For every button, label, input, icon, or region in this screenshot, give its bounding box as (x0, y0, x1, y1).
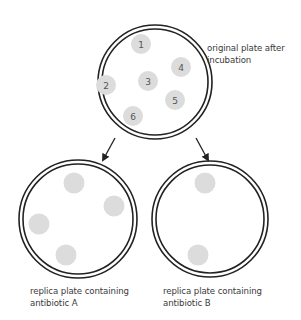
colony-2: 2 (96, 75, 116, 95)
original-plate-label-line1: original plate after (207, 42, 285, 54)
arrow-to-replica-b (196, 138, 208, 160)
replica-a-label-line2: antibiotic A (30, 297, 129, 309)
svg-text:1: 1 (138, 40, 144, 50)
svg-text:3: 3 (145, 77, 151, 87)
colony-a-4 (104, 196, 125, 217)
colony-6: 6 (123, 106, 143, 126)
original-plate-label-line2: incubation (207, 54, 285, 66)
colony-3: 3 (138, 71, 158, 91)
colony-a-6 (56, 245, 77, 266)
svg-text:4: 4 (178, 63, 184, 73)
svg-text:2: 2 (103, 81, 109, 91)
svg-text:5: 5 (172, 96, 178, 106)
colony-a-2 (29, 214, 50, 235)
replica-a-label-line1: replica plate containing (30, 285, 129, 297)
colony-b-1 (195, 173, 216, 194)
colony-4: 4 (171, 57, 191, 77)
original-plate: 1 2 3 4 5 6 (96, 25, 212, 139)
arrow-to-replica-a (103, 138, 115, 160)
colony-a-1 (64, 173, 85, 194)
colony-b-6 (188, 245, 209, 266)
colony-1: 1 (131, 34, 151, 54)
colony-5: 5 (165, 90, 185, 110)
replica-b-label-line2: antibiotic B (163, 297, 262, 309)
replica-b-label-line1: replica plate containing (163, 285, 262, 297)
svg-text:6: 6 (130, 112, 136, 122)
original-plate-label: original plate after incubation (207, 42, 285, 66)
replica-plate-b (152, 161, 268, 277)
replica-b-label: replica plate containing antibiotic B (163, 285, 262, 309)
replica-plate-a (19, 160, 137, 278)
replica-a-label: replica plate containing antibiotic A (30, 285, 129, 309)
